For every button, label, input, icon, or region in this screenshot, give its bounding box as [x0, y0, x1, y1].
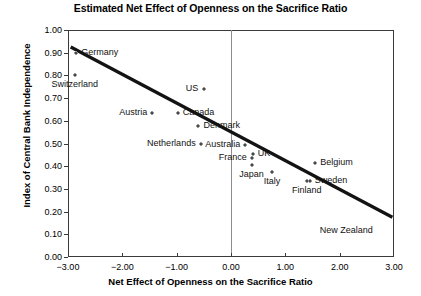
- data-point-marker: [313, 161, 317, 165]
- data-point-marker: [199, 142, 203, 146]
- data-point-label: Netherlands: [147, 138, 196, 148]
- y-tick-mark: [64, 75, 68, 76]
- y-tick-label: 0.50: [22, 139, 62, 149]
- data-point-marker: [73, 73, 77, 77]
- data-point-marker: [250, 163, 254, 167]
- data-point-label: New Zealand: [320, 225, 373, 235]
- scatter-chart: Estimated Net Effect of Openness on the …: [0, 0, 421, 296]
- y-tick-label: 1.00: [22, 25, 62, 35]
- x-axis-title: Net Effect of Openness on the Sacrifice …: [0, 276, 421, 287]
- y-tick-mark: [64, 53, 68, 54]
- x-tick-mark: [340, 253, 341, 257]
- data-point-label: Australia: [205, 139, 240, 149]
- x-tick-label: 3.00: [371, 262, 417, 272]
- data-point-marker: [74, 51, 78, 55]
- y-tick-label: 0.10: [22, 229, 62, 239]
- data-point-label: Switzerland: [52, 79, 99, 89]
- y-tick-label: 0.70: [22, 93, 62, 103]
- y-tick-mark: [64, 121, 68, 122]
- data-point-marker: [250, 156, 254, 160]
- data-point-marker: [176, 111, 180, 115]
- data-point-label: Japan: [239, 169, 264, 179]
- data-point-label: Italy: [264, 176, 281, 186]
- x-tick-mark: [285, 253, 286, 257]
- data-point-label: Canada: [183, 107, 215, 117]
- data-point-label: Finland: [292, 185, 322, 195]
- data-point-marker: [243, 143, 247, 147]
- x-tick-label: −2.00: [99, 262, 145, 272]
- y-tick-mark: [64, 189, 68, 190]
- x-tick-mark: [231, 253, 232, 257]
- y-tick-mark: [64, 212, 68, 213]
- y-tick-mark: [64, 234, 68, 235]
- y-tick-label: 0.20: [22, 207, 62, 217]
- x-tick-label: 1.00: [262, 262, 308, 272]
- y-tick-label: 0.30: [22, 184, 62, 194]
- x-tick-label: 2.00: [317, 262, 363, 272]
- data-point-label: Austria: [119, 107, 147, 117]
- y-tick-mark: [64, 166, 68, 167]
- y-tick-mark: [64, 30, 68, 31]
- data-point-label: Belgium: [320, 157, 353, 167]
- data-point-marker: [196, 124, 200, 128]
- y-tick-label: 0.60: [22, 116, 62, 126]
- y-tick-mark: [64, 98, 68, 99]
- chart-title: Estimated Net Effect of Openness on the …: [0, 2, 421, 14]
- data-point-label: Germany: [81, 47, 118, 57]
- y-tick-mark: [64, 257, 68, 258]
- data-point-label: Denmark: [203, 120, 240, 130]
- x-tick-mark: [177, 253, 178, 257]
- data-point-marker: [305, 179, 309, 183]
- x-tick-label: 0.00: [208, 262, 254, 272]
- x-tick-label: −3.00: [45, 262, 91, 272]
- y-tick-label: 0.90: [22, 48, 62, 58]
- data-point-label: UK: [258, 148, 271, 158]
- x-tick-label: −1.00: [154, 262, 200, 272]
- data-point-label: Sweden: [315, 175, 348, 185]
- data-point-marker: [251, 152, 255, 156]
- data-point-marker: [150, 111, 154, 115]
- data-point-marker: [202, 87, 206, 91]
- data-point-marker: [270, 170, 274, 174]
- y-tick-mark: [64, 144, 68, 145]
- y-tick-label: 0.00: [22, 252, 62, 262]
- x-tick-mark: [122, 253, 123, 257]
- data-point-label: US: [186, 83, 199, 93]
- y-tick-label: 0.40: [22, 161, 62, 171]
- data-point-label: France: [219, 152, 247, 162]
